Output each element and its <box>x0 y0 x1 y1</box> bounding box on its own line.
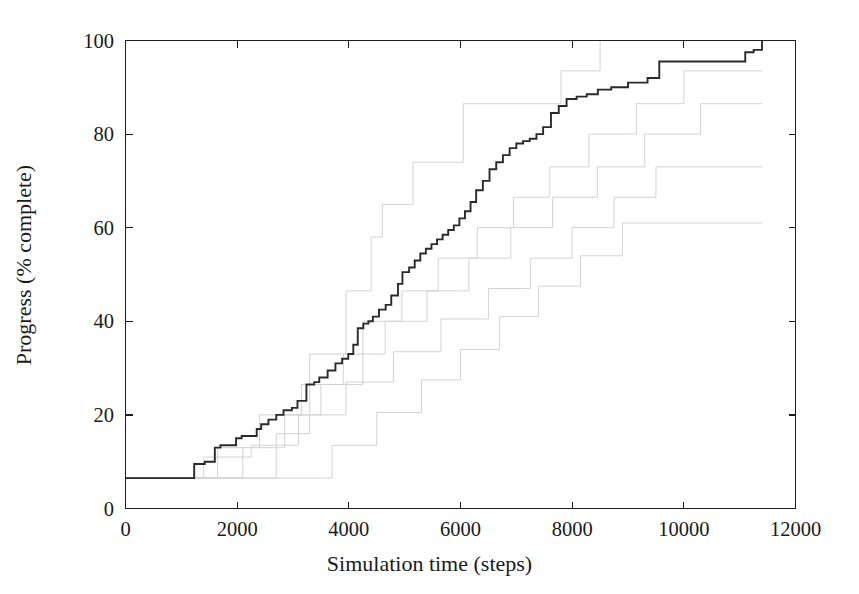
y-tick-label-20: 20 <box>48 405 114 426</box>
series-mean-progress <box>126 41 763 479</box>
series-group <box>126 41 763 479</box>
series-run-fastest <box>126 41 763 479</box>
y-tick-label-40: 40 <box>48 311 114 332</box>
y-tick-label-80: 80 <box>48 124 114 145</box>
x-tick-label-0: 0 <box>120 519 130 540</box>
series-run-slowest <box>126 223 763 478</box>
x-tick-label-10000: 10000 <box>658 519 709 540</box>
x-tick-label-4000: 4000 <box>328 519 369 540</box>
y-tick-label-100: 100 <box>48 30 114 51</box>
chart-figure: 020004000600080001000012000 020406080100… <box>0 0 859 594</box>
series-run-slow <box>126 167 763 478</box>
x-tick-label-12000: 12000 <box>770 519 821 540</box>
x-tick-label-6000: 6000 <box>440 519 481 540</box>
x-tick-label-2000: 2000 <box>217 519 258 540</box>
x-axis-title: Simulation time (steps) <box>0 551 859 577</box>
y-axis-title: Progress (% complete) <box>11 165 37 365</box>
y-axis-title-wrap: Progress (% complete) <box>0 0 48 530</box>
series-run-fast <box>126 71 763 478</box>
axis-box <box>126 41 796 509</box>
x-tick-label-8000: 8000 <box>552 519 593 540</box>
plot-canvas <box>0 0 859 594</box>
y-tick-label-60: 60 <box>48 217 114 238</box>
series-run-median <box>126 104 763 478</box>
axes-group <box>126 41 796 509</box>
y-tick-label-0: 0 <box>48 498 114 519</box>
